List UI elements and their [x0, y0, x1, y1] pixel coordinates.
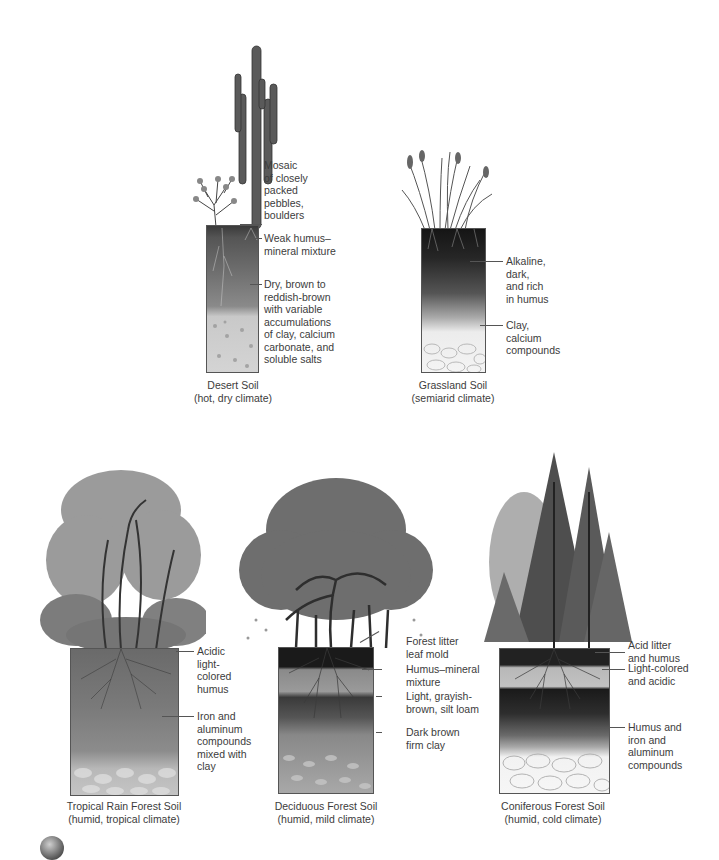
- desert-soil-column: [206, 225, 259, 373]
- desert-shrub-illustration: [186, 175, 246, 227]
- tropical-roots: [71, 649, 179, 796]
- leader-line: [252, 238, 262, 239]
- conifer-trees-illustration: [484, 452, 634, 650]
- grassland-caption-title: Grassland Soil: [400, 379, 506, 392]
- deciduous-layer-label-silt: Light, grayish- brown, silt loam: [406, 690, 479, 715]
- grassland-caption: Grassland Soil (semiarid climate): [400, 379, 506, 404]
- leader-line: [376, 732, 382, 733]
- coniferous-caption: Coniferous Forest Soil (humid, cold clim…: [493, 800, 613, 825]
- deciduous-tree-illustration: [236, 470, 436, 650]
- grassland-soil-column: [421, 228, 486, 373]
- coniferous-soil-column: [499, 648, 610, 794]
- grassland-caption-climate: (semiarid climate): [400, 392, 506, 405]
- desert-caption: Desert Soil (hot, dry climate): [181, 379, 285, 404]
- leader-line: [590, 727, 625, 728]
- deciduous-caption-title: Deciduous Forest Soil: [266, 800, 386, 813]
- leader-line: [250, 284, 262, 285]
- tropical-caption-climate: (humid, tropical climate): [54, 813, 194, 826]
- deciduous-soil-column: [278, 647, 374, 794]
- grassland-roots-and-stones: [422, 229, 486, 373]
- coniferous-layer-label-acidic: Light-colored and acidic: [628, 662, 689, 687]
- deciduous-layer-label-humus: Humus–mineral mixture: [406, 663, 480, 688]
- leader-line: [176, 651, 194, 652]
- leader-line: [595, 652, 625, 653]
- leader-line: [240, 224, 262, 225]
- desert-layer-label-pebbles: Mosaic of closely packed pebbles, boulde…: [264, 159, 308, 222]
- leader-line: [362, 669, 382, 670]
- leader-line: [602, 669, 625, 670]
- desert-caption-climate: (hot, dry climate): [181, 392, 285, 405]
- deciduous-caption: Deciduous Forest Soil (humid, mild clima…: [266, 800, 386, 825]
- desert-roots: [207, 226, 259, 373]
- deciduous-roots: [279, 648, 374, 794]
- desert-caption-title: Desert Soil: [181, 379, 285, 392]
- rainforest-trees-illustration: [36, 470, 206, 650]
- tropical-caption: Tropical Rain Forest Soil (humid, tropic…: [54, 800, 194, 825]
- coniferous-layer-label-compounds: Humus and iron and aluminum compounds: [628, 721, 682, 771]
- coniferous-caption-climate: (humid, cold climate): [493, 813, 613, 826]
- coniferous-layer-label-litter: Acid litter and humus: [628, 639, 680, 664]
- deciduous-layer-label-clay: Dark brown firm clay: [406, 726, 460, 751]
- tropical-soil-column: [70, 648, 179, 796]
- desert-layer-label-subsoil: Dry, brown to reddish-brown with variabl…: [264, 278, 335, 366]
- coniferous-roots-and-stones: [500, 649, 610, 794]
- leader-line: [470, 261, 503, 262]
- leader-line: [162, 716, 194, 717]
- desert-layer-label-humus: Weak humus– mineral mixture: [264, 232, 336, 257]
- leader-line: [376, 696, 382, 697]
- leader-line: [480, 325, 503, 326]
- globe-icon: [40, 836, 64, 860]
- coniferous-caption-title: Coniferous Forest Soil: [493, 800, 613, 813]
- tropical-layer-label-humus: Acidic light- colored humus: [197, 645, 231, 695]
- grass-illustration: [400, 150, 500, 230]
- deciduous-layer-label-litter: Forest litter leaf mold: [406, 635, 459, 660]
- grassland-layer-label-humus: Alkaline, dark, and rich in humus: [506, 255, 549, 305]
- tropical-caption-title: Tropical Rain Forest Soil: [54, 800, 194, 813]
- tropical-layer-label-iron: Iron and aluminum compounds mixed with c…: [197, 710, 251, 773]
- grassland-layer-label-clay: Clay, calcium compounds: [506, 319, 560, 357]
- deciduous-caption-climate: (humid, mild climate): [266, 813, 386, 826]
